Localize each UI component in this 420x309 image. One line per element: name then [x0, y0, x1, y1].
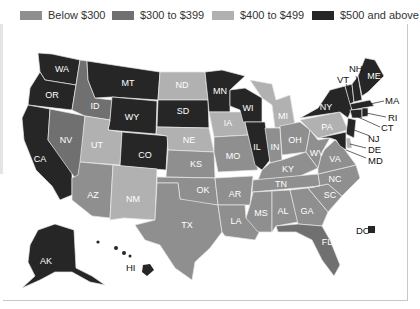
label-dc-text: DC [356, 225, 370, 236]
label-de: DE [368, 144, 381, 155]
label-ia: IA [224, 118, 233, 128]
label-az: AZ [87, 190, 99, 200]
label-mi: MI [278, 111, 288, 121]
label-or: OR [45, 90, 59, 100]
legend-swatch [212, 11, 234, 20]
label-oh: OH [288, 135, 302, 145]
label-il: IL [253, 142, 261, 152]
label-wy: WY [125, 112, 140, 122]
legend-swatch [312, 11, 334, 20]
label-ny: NY [320, 102, 333, 112]
label-wa: WA [55, 64, 69, 74]
state-ak[interactable] [22, 224, 105, 288]
leader-line-de [350, 144, 366, 148]
label-md: MD [368, 155, 383, 166]
label-ne: NE [183, 135, 196, 145]
legend: Below $300 $300 to $399 $400 to $499 $50… [0, 6, 420, 24]
label-vt: VT [337, 74, 349, 85]
us-map: WA OR CA NV ID MT WY UT CO AZ NM ND SD N… [0, 24, 420, 309]
legend-swatch [112, 11, 134, 20]
legend-label: Below $300 [48, 9, 106, 21]
state-fl[interactable] [276, 224, 340, 276]
label-tx: TX [181, 220, 193, 230]
label-va: VA [329, 154, 340, 164]
label-nc: NC [329, 174, 342, 184]
label-ky: KY [282, 164, 294, 174]
label-wi: WI [243, 103, 254, 113]
legend-item-500-above: $500 and above [312, 6, 419, 24]
label-ar: AR [229, 189, 242, 199]
label-nv: NV [60, 135, 73, 145]
legend-swatch [20, 11, 42, 20]
label-ak: AK [40, 256, 52, 266]
legend-label: $400 to $499 [240, 9, 304, 21]
label-pa: PA [321, 122, 332, 132]
state-ct[interactable] [350, 109, 362, 118]
leader-line-ma [370, 101, 384, 104]
legend-item-400-499: $400 to $499 [212, 6, 304, 24]
label-mn: MN [213, 86, 227, 96]
label-nd: ND [176, 80, 189, 90]
label-nm: NM [126, 194, 140, 204]
label-ga: GA [300, 206, 313, 216]
label-id: ID [91, 101, 101, 111]
label-ks: KS [190, 159, 202, 169]
label-sd: SD [177, 106, 190, 116]
state-nj[interactable] [346, 118, 356, 138]
label-me: ME [367, 71, 381, 81]
label-wv: WV [310, 148, 325, 158]
legend-label: $300 to $399 [140, 9, 204, 21]
state-nm[interactable] [110, 165, 157, 220]
legend-item-below-300: Below $300 [20, 6, 106, 24]
label-la: LA [230, 216, 241, 226]
label-fl: FL [322, 237, 333, 247]
label-sc: SC [324, 190, 337, 200]
label-ut: UT [91, 140, 103, 150]
label-hi: HI [126, 262, 136, 273]
label-ca: CA [34, 154, 47, 164]
label-al: AL [277, 206, 288, 216]
label-ok: OK [196, 185, 209, 195]
leader-line-ri [366, 113, 386, 117]
state-ri[interactable] [362, 108, 368, 117]
label-ma: MA [385, 95, 400, 106]
label-ct: CT [381, 122, 394, 133]
label-tn: TN [275, 179, 287, 189]
label-mt: MT [122, 78, 135, 88]
label-nh: NH [349, 63, 363, 74]
legend-item-300-399: $300 to $399 [112, 6, 204, 24]
label-mo: MO [226, 151, 241, 161]
label-nj: NJ [368, 133, 380, 144]
state-de[interactable] [346, 138, 352, 148]
label-ms: MS [254, 208, 268, 218]
label-co: CO [138, 150, 152, 160]
label-in: IN [271, 142, 280, 152]
leader-line-ct [358, 117, 380, 127]
legend-label: $500 and above [340, 9, 419, 21]
